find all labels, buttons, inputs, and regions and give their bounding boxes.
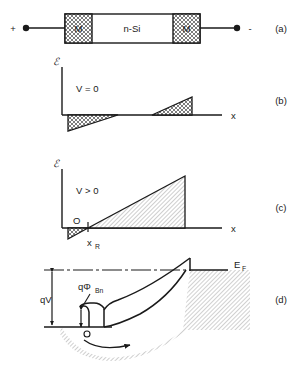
panel-c-x-axis-label: x	[231, 223, 236, 234]
panel-d-carrier-circle	[84, 331, 90, 337]
metal-right-label: M	[183, 23, 191, 34]
terminal-plus-dot	[23, 25, 29, 31]
panel-c-origin-label: O	[73, 215, 80, 226]
panel-c-bias-label: V > 0	[76, 185, 98, 196]
semiconductor-label: n-Si	[124, 23, 141, 34]
terminal-minus-dot	[234, 25, 240, 31]
panel-b-bias-label: V = 0	[76, 83, 98, 94]
panel-d-applied-bias-label: qV	[40, 294, 52, 305]
panel-label-b: (b)	[275, 95, 287, 106]
panel-label-a: (a)	[275, 23, 287, 34]
panel-c-depletion-edge-sub: R	[95, 243, 100, 250]
terminal-minus-label: -	[248, 23, 251, 34]
figure-root: + M M n-Si - (a) ℰ x V = 0 (b) ℰ x V > 0…	[0, 0, 297, 379]
panel-d-fermi-label: E	[234, 259, 240, 270]
panel-d-barrier-sub: Bn	[95, 287, 104, 294]
panel-d-fermi-sub: F	[242, 265, 246, 272]
canvas-background	[0, 0, 297, 379]
panel-b-x-axis-label: x	[231, 110, 236, 121]
panel-d-barrier-label: qΦ	[78, 281, 91, 292]
panel-label-c: (c)	[275, 202, 286, 213]
figure-svg: + M M n-Si - (a) ℰ x V = 0 (b) ℰ x V > 0…	[0, 0, 297, 379]
panel-c-y-axis-symbol: ℰ	[53, 158, 60, 169]
panel-b-y-axis-symbol: ℰ	[53, 56, 60, 67]
terminal-plus-label: +	[10, 23, 16, 34]
metal-left-label: M	[75, 23, 83, 34]
panel-c-depletion-edge-label: x	[87, 237, 92, 248]
panel-label-d: (d)	[275, 294, 287, 305]
